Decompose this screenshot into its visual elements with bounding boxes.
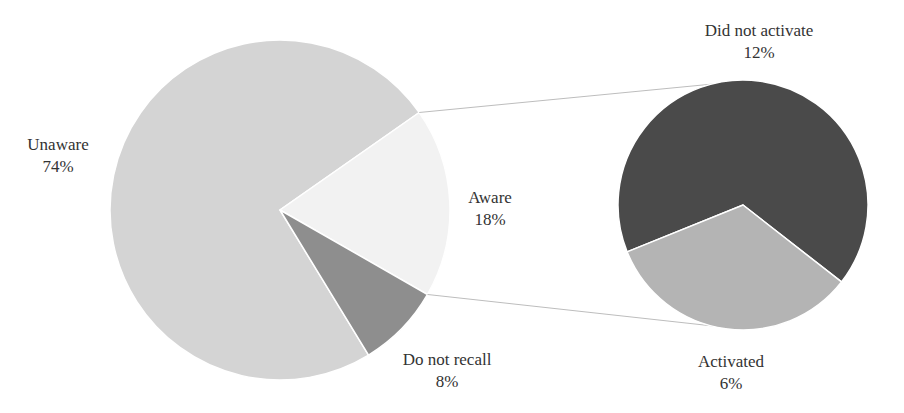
label-unaware: Unaware 74%	[27, 134, 88, 178]
main-pie	[110, 40, 450, 380]
label-do-not-recall: Do not recall 8%	[403, 349, 492, 393]
label-unaware-name: Unaware	[27, 134, 88, 156]
label-aware: Aware 18%	[468, 187, 512, 231]
label-activated: Activated 6%	[698, 351, 764, 395]
label-aware-name: Aware	[468, 187, 512, 209]
label-did-not-activate-pct: 12%	[705, 42, 814, 64]
label-did-not-activate: Did not activate 12%	[705, 20, 814, 64]
label-unaware-pct: 74%	[27, 156, 88, 178]
label-do-not-recall-name: Do not recall	[403, 349, 492, 371]
label-do-not-recall-pct: 8%	[403, 371, 492, 393]
label-did-not-activate-name: Did not activate	[705, 20, 814, 42]
label-activated-pct: 6%	[698, 373, 764, 395]
label-aware-pct: 18%	[468, 209, 512, 231]
label-activated-name: Activated	[698, 351, 764, 373]
secondary-pie	[618, 80, 868, 330]
